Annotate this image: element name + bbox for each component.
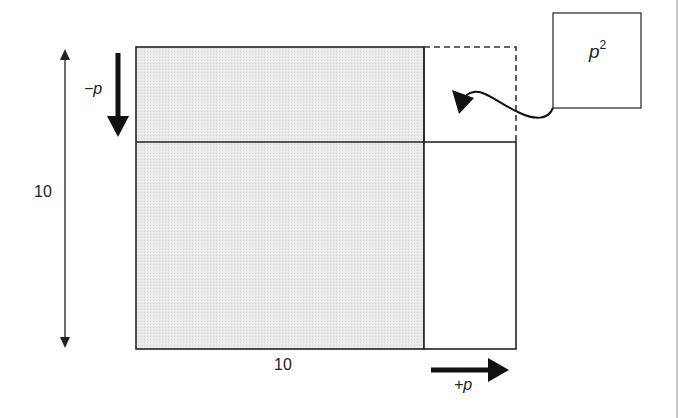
corner-region	[425, 48, 515, 141]
height-label: 10	[34, 183, 52, 201]
height-dimension-arrow	[60, 49, 70, 348]
p-squared-exponent: 2	[600, 38, 607, 52]
diagram-svg	[0, 0, 679, 418]
decrease-label: −p	[84, 80, 102, 98]
decrease-arrow-icon	[107, 53, 129, 137]
p-squared-base: p	[589, 41, 600, 62]
increase-label: +p	[454, 376, 472, 394]
shaded-square	[136, 47, 424, 349]
added-strip	[424, 142, 516, 349]
width-label: 10	[274, 356, 292, 374]
diagram-canvas: 10 10 −p +p p2	[0, 0, 679, 418]
p-squared-label: p2	[589, 38, 606, 63]
